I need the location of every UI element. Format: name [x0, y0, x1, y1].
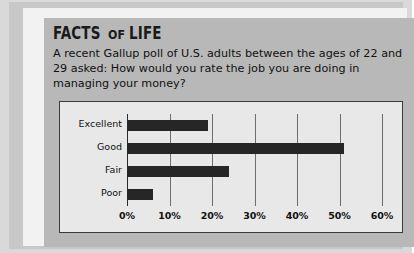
x-tick-label-40%: 40% [286, 210, 309, 221]
poll-question-text: A recent Gallup poll of U.S. adults betw… [53, 46, 403, 92]
bar-row: Good [127, 137, 382, 160]
category-label-excellent: Excellent [79, 118, 122, 129]
outer-frame: FACTSOFLIFE A recent Gallup poll of U.S.… [9, 2, 403, 249]
bar-poor [127, 189, 153, 200]
page-title: FACTSOFLIFE [53, 23, 166, 43]
plot-area: ExcellentGoodFairPoor0%10%20%30%40%50%60… [127, 114, 382, 206]
x-tick-label-50%: 50% [328, 210, 351, 221]
bar-excellent [127, 120, 208, 131]
facts-of-life-panel: FACTSOFLIFE A recent Gallup poll of U.S.… [44, 18, 414, 247]
x-tick-label-0%: 0% [119, 210, 135, 221]
bar-row: Excellent [127, 114, 382, 137]
bar-good [127, 143, 344, 154]
white-border-band: FACTSOFLIFE A recent Gallup poll of U.S.… [23, 8, 407, 246]
title-part-last: LIFE [129, 23, 162, 43]
bar-row: Poor [127, 183, 382, 206]
title-part-middle: OF [108, 27, 125, 42]
bar-row: Fair [127, 160, 382, 183]
bar-chart: ExcellentGoodFairPoor0%10%20%30%40%50%60… [59, 101, 403, 233]
category-label-fair: Fair [105, 164, 122, 175]
gridline-60% [382, 114, 383, 206]
category-label-good: Good [97, 141, 122, 152]
title-part-first: FACTS [53, 23, 101, 43]
bar-fair [127, 166, 229, 177]
x-tick-label-60%: 60% [371, 210, 394, 221]
x-tick-label-20%: 20% [201, 210, 224, 221]
x-tick-label-30%: 30% [243, 210, 266, 221]
x-tick-label-10%: 10% [158, 210, 181, 221]
category-label-poor: Poor [101, 187, 122, 198]
